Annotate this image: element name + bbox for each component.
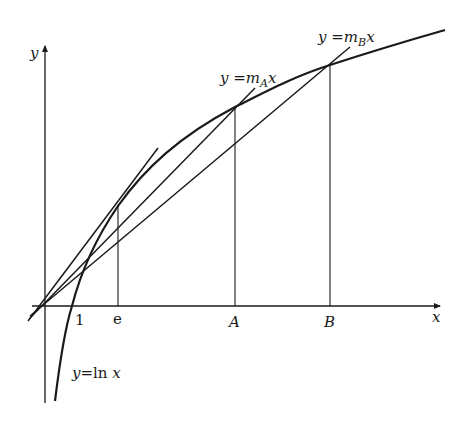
label-line-mA: y =mAx xyxy=(219,69,277,90)
x-axis-label: x xyxy=(432,308,441,326)
label-ln-curve: y=ln x xyxy=(71,364,121,382)
line-mB xyxy=(30,47,350,316)
line-mA xyxy=(30,88,255,318)
label-line-mB: y =mBx xyxy=(317,28,375,49)
tick-label-A: A xyxy=(227,313,240,331)
tick-label-1: 1 xyxy=(75,311,85,329)
tick-label-e: e xyxy=(113,310,122,328)
tangent-line xyxy=(28,148,158,321)
y-axis-label: y xyxy=(29,44,39,62)
tick-label-B: B xyxy=(323,313,335,331)
ln-tangent-diagram: y x 1 e A B y =mAx y =mBx y=ln x xyxy=(0,0,468,430)
